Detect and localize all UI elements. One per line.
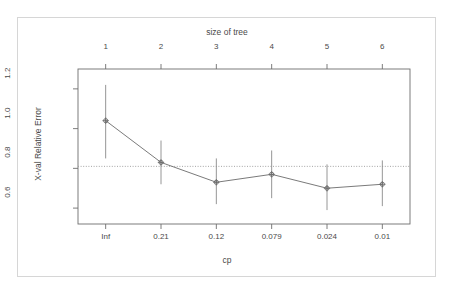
bottom-axis-title: cp <box>0 255 454 265</box>
data-points <box>102 117 385 191</box>
axis-ticks <box>73 64 382 229</box>
top-axis-title: size of tree <box>0 27 454 37</box>
top-tick-label-1: 1 <box>84 42 128 51</box>
bottom-tick-label-0.01: 0.01 <box>360 232 404 241</box>
left-axis-title: X-val Relative Error <box>33 84 43 204</box>
top-tick-label-6: 6 <box>360 42 404 51</box>
y-tick-label-0.8: 0.8 <box>3 147 12 187</box>
bottom-tick-label-0.079: 0.079 <box>250 232 294 241</box>
top-tick-label-2: 2 <box>139 42 183 51</box>
bottom-tick-label-0.21: 0.21 <box>139 232 183 241</box>
y-tick-label-1.2: 1.2 <box>3 67 12 107</box>
data-line <box>106 121 383 189</box>
error-bars <box>106 85 383 210</box>
top-tick-label-3: 3 <box>194 42 238 51</box>
top-tick-label-4: 4 <box>250 42 294 51</box>
y-tick-label-1.0: 1.0 <box>3 107 12 147</box>
bottom-tick-label-Inf: Inf <box>84 232 128 241</box>
bottom-tick-label-0.12: 0.12 <box>194 232 238 241</box>
top-tick-label-5: 5 <box>305 42 349 51</box>
plot-box <box>78 69 410 224</box>
y-tick-label-0.6: 0.6 <box>3 187 12 227</box>
bottom-tick-label-0.024: 0.024 <box>305 232 349 241</box>
